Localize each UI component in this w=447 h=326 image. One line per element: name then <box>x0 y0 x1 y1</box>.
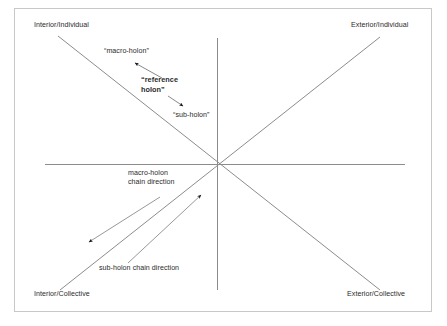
quadrant-label-interior-individual: Interior/Individual <box>34 21 89 30</box>
pointer-arrow-to-sub-holon <box>168 96 183 106</box>
annotation-reference-holon: “reference holon” <box>141 75 178 94</box>
sub-holon-chain-arrow <box>128 195 201 263</box>
annotation-sub-holon: “sub-holon” <box>173 111 209 120</box>
quadrant-label-exterior-collective: Exterior/Collective <box>347 290 405 299</box>
annotation-macro-holon-chain-direction: macro-holon chain direction <box>128 169 175 187</box>
diagonal-interior-individual-exterior-collective <box>58 36 380 290</box>
diagram-canvas <box>0 0 447 326</box>
quadrant-label-exterior-individual: Exterior/Individual <box>351 21 408 30</box>
quadrant-label-interior-collective: Interior/Collective <box>34 290 90 299</box>
diagram-root: Interior/Individual Exterior/Individual … <box>0 0 447 326</box>
annotation-macro-holon: “macro-holon” <box>104 47 149 56</box>
annotation-sub-holon-chain-direction: sub-holon chain direction <box>99 264 179 273</box>
